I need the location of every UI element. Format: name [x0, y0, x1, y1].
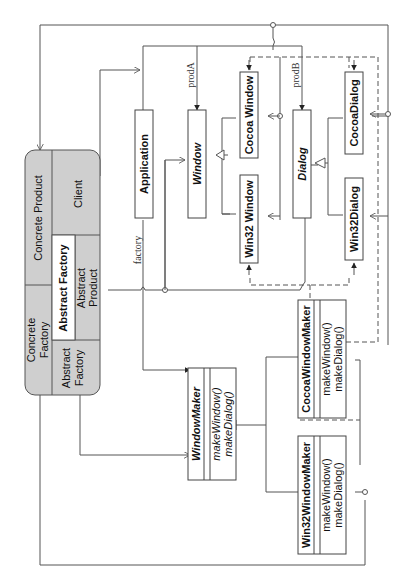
win32-window-label: Win32 Window	[243, 180, 255, 258]
legend-client: Client	[72, 180, 84, 208]
cocoa-window-maker-method-2: makeDialog()	[332, 326, 344, 391]
win32-window-maker-method-1: makeWindow()	[320, 458, 332, 531]
legend-concrete-factory-line1: Concrete	[25, 318, 37, 363]
window-maker-method-2: makeDialog()	[222, 391, 234, 457]
dialog-inheritance	[315, 118, 343, 215]
window-inheritance	[216, 118, 236, 214]
class-cocoa-window-maker: CocoaWindowMaker makeWindow() makeDialog…	[298, 300, 346, 418]
legend-concrete-product: Concrete Product	[32, 175, 44, 261]
concrete-product-links	[268, 57, 391, 220]
cocoa-window-maker-method-1: makeWindow()	[320, 322, 332, 395]
dialog-label: Dialog	[296, 147, 308, 181]
class-dialog: Dialog	[293, 110, 311, 218]
role-factory-label: factory	[132, 236, 143, 264]
legend-concrete-factory-line2: Factory	[38, 321, 50, 358]
cocoa-dialog-label: CocoaDialog	[348, 79, 360, 146]
abstract-factory-diagram: Concrete Product Concrete Factory Abstra…	[0, 0, 406, 584]
window-maker-label: WindowMaker	[190, 386, 202, 461]
window-maker-method-1: makeWindow()	[210, 387, 222, 461]
win32-window-maker-label: Win32WindowMaker	[300, 441, 312, 548]
win32-window-maker-method-2: makeDialog()	[332, 462, 344, 527]
class-cocoa-dialog: CocoaDialog	[345, 72, 363, 154]
role-proda-label: prodA	[185, 61, 196, 87]
legend-abstract-product-line2: Product	[87, 269, 99, 307]
application-label: Application	[138, 134, 150, 194]
pattern-legend-box: Concrete Product Concrete Factory Abstra…	[25, 150, 100, 395]
cocoa-window-maker-label: CocoaWindowMaker	[300, 305, 312, 413]
cocoa-window-label: Cocoa Window	[243, 75, 255, 154]
class-application: Application	[135, 110, 153, 218]
legend-abstract-factory-title: Abstract Factory	[57, 243, 69, 331]
class-cocoa-window: Cocoa Window	[240, 72, 258, 158]
legend-abstract-factory-line1: Abstract	[60, 348, 72, 388]
class-win32-window-maker: Win32WindowMaker makeWindow() makeDialog…	[298, 436, 346, 554]
window-label: Window	[191, 142, 203, 185]
role-prodb-label: prodB	[290, 62, 301, 87]
class-window: Window	[188, 110, 206, 218]
legend-abstract-product-line1: Abstract	[75, 268, 87, 308]
win32-dialog-label: Win32Dialog	[348, 186, 360, 252]
legend-abstract-factory-line2: Factory	[73, 349, 85, 386]
class-window-maker: WindowMaker makeWindow() makeDialog()	[188, 368, 236, 480]
